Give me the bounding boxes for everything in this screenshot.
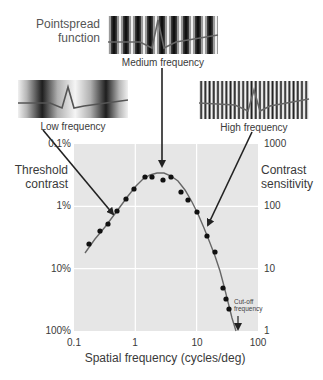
sensitivity-title-line2: sensitivity — [261, 177, 313, 191]
high-frequency-psf-image — [199, 81, 309, 119]
psf-label: Pointspread function — [18, 17, 100, 45]
threshold-title-line1: Threshold — [6, 163, 68, 177]
cutoff-label-line1: Cut-off — [234, 298, 263, 305]
y-left-tick-100pct: 100% — [30, 325, 71, 336]
x-tick-0.1: 0.1 — [59, 337, 89, 348]
psf-label-line2: function — [18, 31, 100, 45]
y-left-tick-1pct: 1% — [30, 200, 71, 211]
medium-frequency-label: Medium frequency — [108, 57, 218, 68]
y-right-tick-100: 100 — [264, 200, 281, 211]
x-tick-1: 1 — [120, 337, 150, 348]
x-tick-100: 100 — [243, 337, 273, 348]
plot-area — [74, 144, 258, 331]
x-tick-10: 10 — [182, 337, 212, 348]
psf-label-line1: Pointspread — [18, 17, 100, 31]
y-left-tick-0.1pct: 0.1% — [30, 138, 71, 149]
y-right-tick-10: 10 — [264, 263, 275, 274]
contrast-sensitivity-axis-title: Contrast sensitivity — [261, 163, 313, 191]
cutoff-label-line2: frequency — [234, 305, 263, 312]
x-axis-title: Spatial frequency (cycles/deg) — [60, 351, 270, 365]
cutoff-frequency-label: Cut-off frequency — [234, 298, 263, 312]
y-right-tick-1000: 1000 — [264, 138, 286, 149]
threshold-contrast-axis-title: Threshold contrast — [6, 163, 68, 191]
sensitivity-title-line1: Contrast — [261, 163, 313, 177]
threshold-title-line2: contrast — [6, 177, 68, 191]
low-frequency-psf-image — [18, 80, 128, 118]
medium-frequency-psf-image — [108, 16, 218, 54]
high-frequency-label: High frequency — [199, 122, 309, 133]
low-frequency-label: Low frequency — [18, 121, 128, 132]
y-right-tick-1: 1 — [264, 325, 270, 336]
y-left-tick-10pct: 10% — [30, 263, 71, 274]
